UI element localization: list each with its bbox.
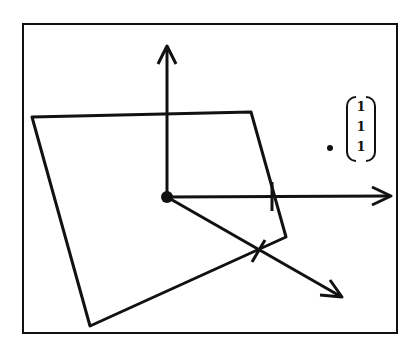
vector-entry-1: 1 [356,97,365,117]
arrowhead-diagonal-icon [320,280,342,297]
vector-label: 1 1 1 [346,96,376,160]
axis-right [167,196,388,197]
plane-polygon [32,112,286,326]
axis-diagonal [167,197,340,296]
origin-point [161,191,173,203]
right-paren [366,96,376,162]
diagram-canvas [0,0,418,351]
vector-entry-3: 1 [356,137,365,157]
vector-entry-2: 1 [356,117,365,137]
vector-point [327,145,333,151]
